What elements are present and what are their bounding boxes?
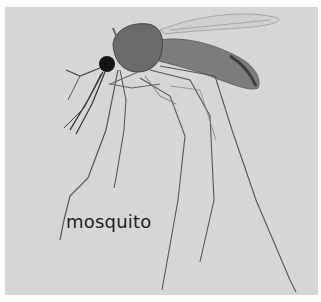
caption-label: mosquito: [66, 211, 151, 232]
head: [99, 56, 115, 72]
mosquito-photo: mosquito: [5, 7, 318, 295]
abdomen: [155, 39, 259, 89]
thorax: [113, 24, 162, 72]
mosquito-illustration: [5, 7, 318, 295]
wing: [160, 14, 279, 34]
